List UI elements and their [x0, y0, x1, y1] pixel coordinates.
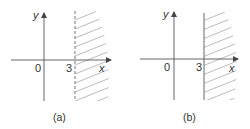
hatched-region-b [200, 2, 250, 121]
caption-b: (b) [183, 111, 196, 123]
hatched-region-a [70, 2, 120, 121]
y-axis-label-b: y [162, 8, 170, 20]
caption-a: (a) [53, 111, 66, 123]
inequality-diagram: y 0 3 x (a) y 0 3 x (b) [0, 0, 250, 129]
origin-label-b: 0 [164, 61, 170, 73]
boundary-label-b: 3 [196, 61, 202, 73]
x-axis-label-b: x [228, 62, 235, 74]
y-axis-label-a: y [32, 9, 40, 21]
panel-b: y 0 3 x (b) [140, 2, 250, 123]
origin-label-a: 0 [35, 62, 41, 74]
panel-a: y 0 3 x (a) [11, 2, 120, 123]
x-axis-label-a: x [98, 62, 105, 74]
boundary-label-a: 3 [66, 62, 72, 74]
